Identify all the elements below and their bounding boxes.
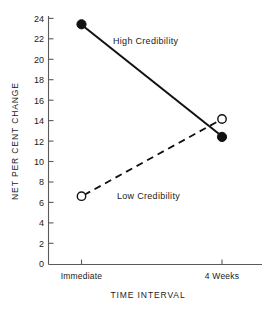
y-tick-label-12: 12 [34, 137, 44, 147]
y-tick-label-24: 24 [34, 14, 44, 24]
x-tick-label-immediate: Immediate [61, 271, 103, 281]
y-tick-label-6: 6 [39, 198, 44, 208]
y-tick-label-22: 22 [34, 34, 44, 44]
chart-figure: 24 22 20 18 16 14 12 10 8 6 4 2 0 Immedi… [0, 0, 271, 309]
data-point-low-credibility-immediate [77, 192, 85, 200]
y-tick-label-14: 14 [34, 116, 44, 126]
y-tick-label-2: 2 [39, 239, 44, 249]
line-chart-plot: 24 22 20 18 16 14 12 10 8 6 4 2 0 Immedi… [0, 0, 271, 309]
series-line-low-credibility [84, 121, 220, 196]
y-tick-label-4: 4 [39, 218, 44, 228]
y-tick-label-0: 0 [39, 259, 44, 269]
x-tick-label-4weeks: 4 Weeks [205, 271, 239, 281]
data-point-high-credibility-immediate [77, 20, 86, 29]
y-axis-title: NET PER CENT CHANGE [10, 82, 20, 200]
data-point-high-credibility-4weeks [217, 132, 226, 141]
data-point-low-credibility-4weeks [218, 115, 226, 123]
y-tick-label-16: 16 [34, 96, 44, 106]
y-tick-label-10: 10 [34, 157, 44, 167]
y-tick-label-8: 8 [39, 177, 44, 187]
y-tick-label-20: 20 [34, 55, 44, 65]
y-tick-label-18: 18 [34, 75, 44, 85]
series-label-high-credibility: High Credibility [113, 36, 179, 46]
x-axis-title: TIME INTERVAL [110, 290, 185, 300]
series-label-low-credibility: Low Credibility [117, 191, 180, 201]
